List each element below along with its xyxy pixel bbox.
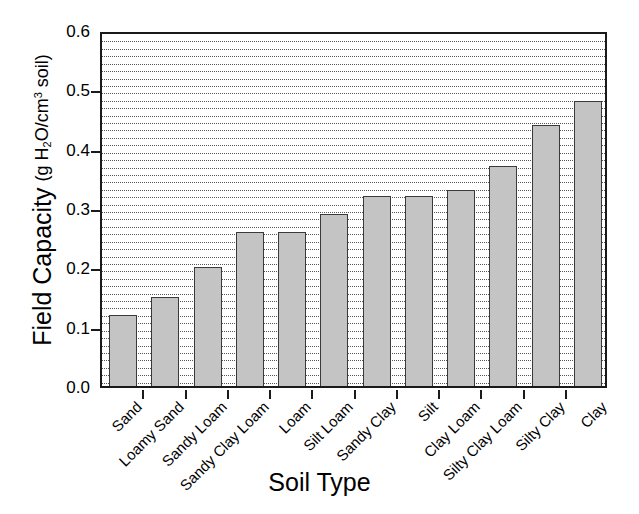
x-axis-title: Soil Type xyxy=(0,468,639,497)
y-tick-mark xyxy=(91,151,100,153)
y-tick-mark xyxy=(91,210,100,212)
x-tick-label: Sandy Clay xyxy=(332,398,398,464)
y-tick-label: 0.1 xyxy=(50,320,90,337)
x-tick-mark xyxy=(185,390,187,399)
bar xyxy=(151,297,179,386)
bar xyxy=(532,125,560,386)
x-tick-mark xyxy=(565,390,567,399)
x-tick-mark xyxy=(396,390,398,399)
bar xyxy=(363,196,391,386)
bar xyxy=(236,232,264,386)
x-tick-label: Clay xyxy=(577,398,610,431)
x-tick-mark xyxy=(311,390,313,399)
x-tick-label: Clay Loam xyxy=(420,398,483,461)
x-tick-mark xyxy=(480,390,482,399)
x-tick-mark xyxy=(227,390,229,399)
y-tick-label: 0.4 xyxy=(50,142,90,159)
bar xyxy=(405,196,433,386)
plot-area xyxy=(100,32,607,388)
x-tick-label: Silt Loam xyxy=(300,398,356,454)
x-tick-mark xyxy=(142,390,144,399)
y-tick-label: 0.6 xyxy=(50,23,90,40)
y-axis-tick-labels: 0.00.10.20.30.40.50.6 xyxy=(44,0,90,514)
bar-chart-figure: Field Capacity(g H2O/cm3 soil) 0.00.10.2… xyxy=(0,0,639,514)
x-tick-label: Sandy Loam xyxy=(158,398,230,470)
y-tick-mark xyxy=(91,269,100,271)
bar xyxy=(320,214,348,386)
y-axis-unit-superscript: 3 xyxy=(32,92,44,98)
y-tick-label: 0.3 xyxy=(50,201,90,218)
x-tick-mark xyxy=(269,390,271,399)
x-tick-mark xyxy=(354,390,356,399)
bar-series xyxy=(102,34,605,386)
x-tick-label: Loam xyxy=(276,398,315,437)
x-tick-label: Silty Clay xyxy=(511,398,567,454)
bar xyxy=(447,190,475,386)
y-tick-label: 0.2 xyxy=(50,260,90,277)
x-tick-mark xyxy=(523,390,525,399)
bar xyxy=(194,267,222,386)
x-tick-label: Sand xyxy=(108,398,145,435)
y-tick-label: 0.0 xyxy=(50,379,90,396)
bar xyxy=(574,101,602,386)
bar xyxy=(109,315,137,386)
x-tick-mark xyxy=(438,390,440,399)
y-tick-mark xyxy=(91,329,100,331)
y-tick-label: 0.5 xyxy=(50,82,90,99)
bar xyxy=(278,232,306,386)
y-tick-mark xyxy=(91,91,100,93)
bar xyxy=(489,166,517,386)
x-tick-label: Silt xyxy=(414,398,441,425)
x-tick-label: Loamy Sand xyxy=(116,398,188,470)
